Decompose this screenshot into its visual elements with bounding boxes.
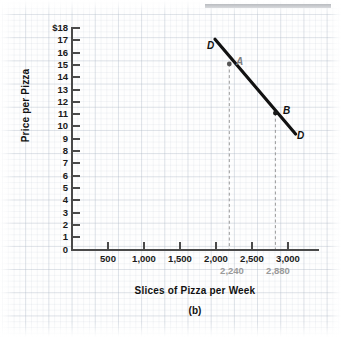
y-label-0: 0 (24, 245, 68, 254)
y-label-3: 3 (24, 208, 68, 217)
y-tick-2 (73, 224, 80, 226)
y-label-9: 9 (24, 134, 68, 143)
y-label-5: 5 (24, 183, 68, 192)
x-tick-2500 (251, 242, 253, 250)
top-divider-bar (205, 4, 331, 8)
y-label-4: 4 (24, 195, 68, 204)
y-tick-18 (73, 27, 80, 29)
y-tick-6 (73, 175, 80, 177)
y-tick-7 (73, 162, 80, 164)
x-tick-1000 (143, 242, 145, 250)
demand-curve-label-top: D (207, 40, 214, 51)
y-label-16: 16 (24, 48, 68, 57)
x-tick-1500 (179, 242, 181, 250)
y-label-10: 10 (24, 121, 68, 130)
y-label-7: 7 (24, 158, 68, 167)
y-tick-13 (73, 89, 80, 91)
x-annotation-2240: 2,240 (208, 265, 256, 276)
y-label-6: 6 (24, 171, 68, 180)
demand-curve-label-bottom: D (297, 130, 304, 141)
figure-caption: (b) (71, 305, 319, 316)
x-tick-3000 (287, 242, 289, 250)
y-tick-10 (73, 125, 80, 127)
y-label-8: 8 (24, 146, 68, 155)
y-tick-1 (73, 236, 80, 238)
point-b-label: B (283, 105, 290, 116)
y-tick-11 (73, 113, 80, 115)
x-tick-2000 (215, 242, 217, 250)
y-label-11: 11 (24, 109, 68, 118)
x-annotation-2880: 2,880 (254, 265, 302, 276)
y-label-15: 15 (24, 60, 68, 69)
y-label-13: 13 (24, 85, 68, 94)
y-tick-5 (73, 187, 80, 189)
y-tick-14 (73, 76, 80, 78)
y-label-17: 17 (24, 35, 68, 44)
x-label-3000: 3,000 (264, 253, 312, 264)
y-label-12: 12 (24, 97, 68, 106)
y-tick-8 (73, 150, 80, 152)
y-label-18: $18 (24, 23, 68, 32)
x-tick-500 (107, 242, 109, 250)
y-label-14: 14 (24, 72, 68, 81)
y-tick-15 (73, 64, 80, 66)
y-axis-title: Price per Pizza (20, 51, 31, 161)
y-tick-3 (73, 212, 80, 214)
y-tick-16 (73, 52, 80, 54)
point-a-label: A (236, 56, 243, 67)
y-tick-9 (73, 138, 80, 140)
y-label-2: 2 (24, 220, 68, 229)
y-tick-12 (73, 101, 80, 103)
y-tick-17 (73, 39, 80, 41)
y-tick-4 (73, 199, 80, 201)
y-label-1: 1 (24, 232, 68, 241)
x-axis-title: Slices of Pizza per Week (71, 285, 319, 296)
